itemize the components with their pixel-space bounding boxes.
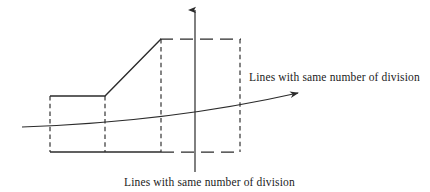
diagram-canvas <box>0 0 430 192</box>
stepped-solid-profile <box>50 39 161 96</box>
division-lines-diagram: Lines with same number of division Lines… <box>0 0 430 192</box>
division-curve-arrow <box>22 93 298 127</box>
label-lines-same-number-division-right: Lines with same number of division <box>249 71 420 84</box>
label-lines-same-number-division-bottom: Lines with same number of division <box>124 176 295 189</box>
